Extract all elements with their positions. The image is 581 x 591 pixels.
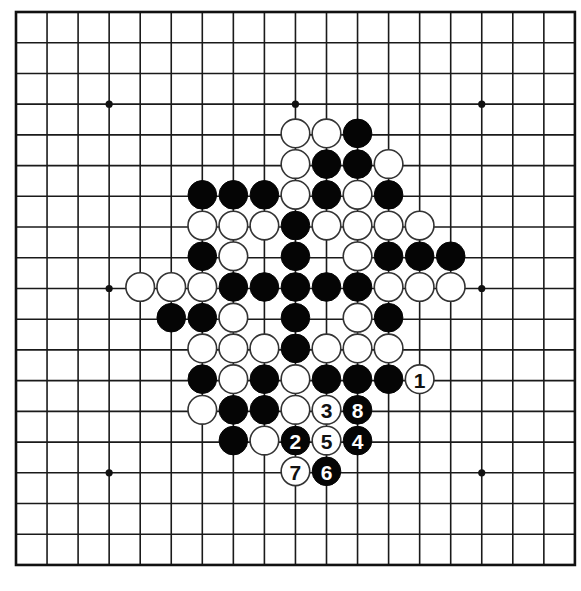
white-stone <box>343 303 372 332</box>
black-stone-icon <box>312 150 341 179</box>
white-stone <box>188 273 217 302</box>
black-stone <box>281 273 310 302</box>
black-stone <box>312 150 341 179</box>
black-stone-icon <box>250 273 279 302</box>
black-stone <box>312 273 341 302</box>
white-stone <box>219 211 248 240</box>
white-stone-icon <box>250 211 279 240</box>
white-stone <box>188 334 217 363</box>
white-stone <box>312 211 341 240</box>
white-stone-icon <box>188 396 217 425</box>
black-stone <box>250 396 279 425</box>
black-stone <box>250 365 279 394</box>
white-stone-icon <box>219 334 248 363</box>
black-stone <box>188 181 217 210</box>
white-stone-icon <box>188 211 217 240</box>
black-stone <box>281 242 310 271</box>
black-stone <box>250 273 279 302</box>
black-stone-icon <box>343 150 372 179</box>
black-stone <box>374 181 403 210</box>
white-stone <box>281 365 310 394</box>
white-stone <box>281 119 310 148</box>
black-stone-icon <box>312 365 341 394</box>
black-stone-icon <box>219 396 248 425</box>
white-stone <box>188 211 217 240</box>
white-stone-icon <box>343 181 372 210</box>
black-stone <box>374 365 403 394</box>
white-stone <box>374 150 403 179</box>
black-stone-icon <box>281 242 310 271</box>
star-point-icon <box>106 469 113 476</box>
white-stone-icon <box>312 334 341 363</box>
white-stone <box>157 273 186 302</box>
white-stone <box>343 181 372 210</box>
white-stone-icon <box>281 396 310 425</box>
black-stone <box>405 242 434 271</box>
white-stone <box>219 242 248 271</box>
white-stone <box>188 396 217 425</box>
black-stone <box>374 242 403 271</box>
white-stone <box>219 303 248 332</box>
black-stone <box>343 119 372 148</box>
white-stone-icon <box>126 273 155 302</box>
black-stone-icon <box>281 334 310 363</box>
white-stone <box>281 396 310 425</box>
white-stone-icon <box>343 211 372 240</box>
move-number-label: 6 <box>321 461 333 484</box>
white-stone <box>250 334 279 363</box>
white-stone <box>312 334 341 363</box>
go-board[interactable]: 13825476 <box>0 0 581 591</box>
black-stone <box>312 365 341 394</box>
white-stone-icon <box>374 150 403 179</box>
star-point-icon <box>106 101 113 108</box>
white-stone-icon <box>374 334 403 363</box>
white-stone-icon <box>312 211 341 240</box>
white-stone-icon <box>343 334 372 363</box>
white-stone <box>374 211 403 240</box>
black-stone <box>281 211 310 240</box>
star-point-icon <box>478 285 485 292</box>
white-stone-icon <box>374 211 403 240</box>
white-stone <box>219 365 248 394</box>
white-stone-icon <box>219 211 248 240</box>
white-stone-icon <box>436 273 465 302</box>
black-stone-move-2: 2 <box>281 426 310 455</box>
black-stone-icon <box>374 303 403 332</box>
black-stone-move-8: 8 <box>343 396 372 425</box>
black-stone-move-4: 4 <box>343 426 372 455</box>
black-stone-icon <box>188 242 217 271</box>
white-stone-icon <box>188 334 217 363</box>
white-stone-icon <box>343 242 372 271</box>
white-stone <box>281 181 310 210</box>
black-stone-icon <box>343 273 372 302</box>
white-stone-icon <box>281 150 310 179</box>
black-stone <box>188 242 217 271</box>
white-stone-move-5: 5 <box>312 426 341 455</box>
white-stone-icon <box>188 273 217 302</box>
star-point-icon <box>478 101 485 108</box>
white-stone <box>405 273 434 302</box>
black-stone <box>343 150 372 179</box>
white-stone-icon <box>250 334 279 363</box>
black-stone-icon <box>250 181 279 210</box>
black-stone-icon <box>219 273 248 302</box>
white-stone-icon <box>157 273 186 302</box>
black-stone-icon <box>188 303 217 332</box>
move-number-label: 4 <box>352 430 364 453</box>
white-stone-icon <box>405 211 434 240</box>
star-point-icon <box>106 285 113 292</box>
white-stone <box>281 150 310 179</box>
black-stone <box>188 365 217 394</box>
white-stone-icon <box>281 181 310 210</box>
white-stone-move-7: 7 <box>281 457 310 486</box>
white-stone <box>343 334 372 363</box>
go-board-svg[interactable]: 13825476 <box>0 0 581 591</box>
white-stone-icon <box>250 426 279 455</box>
black-stone <box>219 396 248 425</box>
white-stone-icon <box>374 273 403 302</box>
black-stone <box>188 303 217 332</box>
black-stone-icon <box>219 426 248 455</box>
black-stone <box>281 334 310 363</box>
white-stone-icon <box>312 119 341 148</box>
white-stone-icon <box>343 303 372 332</box>
